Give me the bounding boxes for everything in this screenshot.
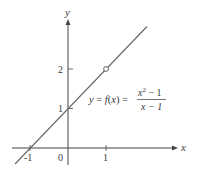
function-annotation: y = f(x) = x2 − 1 x − 1 bbox=[88, 86, 166, 112]
annotation-lhs: y = f(x) = bbox=[88, 94, 128, 106]
y-tick-label-1: 1 bbox=[58, 103, 63, 114]
open-circle-hole-icon bbox=[104, 67, 109, 72]
annotation-numerator: x2 − 1 bbox=[137, 86, 162, 98]
x-tick-label-0: 0 bbox=[58, 152, 63, 163]
x-axis-arrow-icon bbox=[172, 146, 178, 151]
x-axis-label: x bbox=[180, 141, 186, 153]
y-tick-label-2: 2 bbox=[58, 64, 63, 75]
annotation-denominator: x − 1 bbox=[140, 101, 162, 112]
y-axis-label: y bbox=[64, 6, 70, 18]
y-axis-arrow-icon bbox=[66, 19, 71, 25]
x-tick-label-1: 1 bbox=[103, 152, 108, 163]
function-graph: x y -1 0 1 1 2 y = f(x) = x2 − 1 x − 1 bbox=[0, 0, 200, 178]
